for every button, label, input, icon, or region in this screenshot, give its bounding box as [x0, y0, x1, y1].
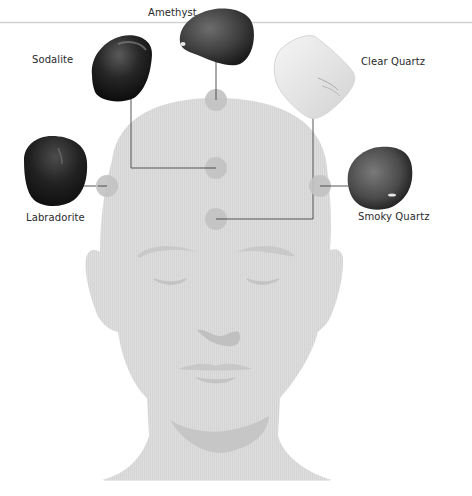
sodalite-stone-icon — [92, 35, 152, 101]
sodalite-label: Sodalite — [32, 54, 73, 65]
crystal-head-diagram: Amethyst Sodalite Labradorite Smoky Quar… — [0, 0, 472, 496]
labradorite-label: Labradorite — [26, 212, 85, 223]
labradorite-stone-icon — [24, 136, 87, 206]
smoky-quartz-label: Smoky Quartz — [358, 211, 430, 222]
clear-quartz-stone-icon — [274, 36, 355, 119]
amethyst-label: Amethyst — [148, 7, 197, 18]
clear-quartz-label: Clear Quartz — [361, 56, 425, 67]
smoky-quartz-stone-icon — [348, 147, 413, 210]
head-silhouette — [85, 98, 343, 481]
diagram-canvas — [0, 0, 472, 496]
